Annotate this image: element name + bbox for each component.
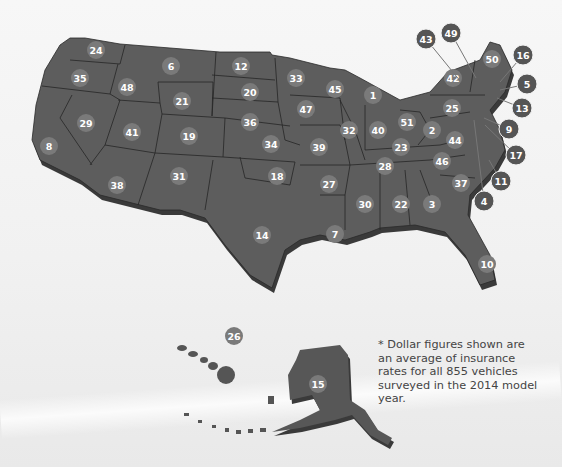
state-rank-badge: 48 <box>118 78 136 96</box>
svg-text:22: 22 <box>394 199 407 210</box>
svg-text:9: 9 <box>506 124 513 135</box>
svg-text:37: 37 <box>454 178 467 189</box>
state-rank-badge: 1 <box>364 86 382 104</box>
svg-text:34: 34 <box>264 139 278 150</box>
state-rank-badge: 14 <box>253 226 271 244</box>
svg-text:8: 8 <box>46 141 53 152</box>
state-rank-badge: 22 <box>392 195 410 213</box>
state-rank-badge: 35 <box>71 69 89 87</box>
svg-text:3: 3 <box>429 199 436 210</box>
svg-text:51: 51 <box>400 117 413 128</box>
state-rank-badge: 36 <box>241 113 259 131</box>
state-rank-badge: 31 <box>170 167 188 185</box>
svg-text:4: 4 <box>481 196 488 207</box>
state-rank-badge: 40 <box>369 121 387 139</box>
state-rank-badge: 34 <box>262 135 280 153</box>
svg-text:44: 44 <box>448 135 462 146</box>
state-rank-badge: 27 <box>320 175 338 193</box>
state-rank-badge: 24 <box>87 41 105 59</box>
svg-text:2: 2 <box>429 125 436 136</box>
svg-text:38: 38 <box>110 180 124 191</box>
svg-text:21: 21 <box>175 96 188 107</box>
state-rank-badge: 20 <box>241 83 259 101</box>
state-rank-badge: 12 <box>232 57 250 75</box>
footnote: * Dollar figures shown are an average of… <box>378 338 538 406</box>
svg-text:29: 29 <box>79 118 92 129</box>
state-rank-badge: 21 <box>173 92 191 110</box>
svg-text:20: 20 <box>243 87 257 98</box>
svg-text:5: 5 <box>524 79 531 90</box>
svg-text:11: 11 <box>494 176 507 187</box>
svg-text:25: 25 <box>445 103 458 114</box>
state-rank-badge: 32 <box>340 121 358 139</box>
state-rank-badge: 8 <box>40 137 58 155</box>
svg-text:41: 41 <box>125 127 138 138</box>
svg-text:48: 48 <box>120 82 134 93</box>
state-rank-badge: 15 <box>309 375 327 393</box>
svg-text:14: 14 <box>255 230 269 241</box>
svg-text:13: 13 <box>515 103 528 114</box>
state-rank-badge: 50 <box>483 50 501 68</box>
state-rank-badge: 46 <box>433 152 451 170</box>
svg-text:50: 50 <box>485 54 499 65</box>
state-rank-badge: 39 <box>310 138 328 156</box>
state-rank-badge: 44 <box>446 131 464 149</box>
state-rank-badge: 41 <box>123 123 141 141</box>
svg-text:43: 43 <box>419 34 432 45</box>
svg-text:30: 30 <box>358 199 372 210</box>
svg-text:46: 46 <box>435 156 449 167</box>
svg-text:1: 1 <box>370 90 377 101</box>
hawaii <box>177 345 235 384</box>
svg-text:12: 12 <box>234 61 247 72</box>
svg-text:7: 7 <box>332 229 339 240</box>
svg-text:33: 33 <box>289 73 302 84</box>
alaska <box>184 345 394 449</box>
state-rank-badge: 29 <box>77 114 95 132</box>
state-rank-badge: 38 <box>108 176 126 194</box>
svg-text:23: 23 <box>394 142 407 153</box>
state-rank-badge: 47 <box>297 100 315 118</box>
svg-text:49: 49 <box>444 28 457 39</box>
svg-text:40: 40 <box>371 125 385 136</box>
state-rank-badge: 45 <box>326 80 344 98</box>
state-rank-badge: 51 <box>398 113 416 131</box>
svg-text:10: 10 <box>480 259 494 270</box>
state-rank-badge: 19 <box>180 127 198 145</box>
state-rank-badge: 23 <box>392 138 410 156</box>
svg-text:26: 26 <box>227 331 241 342</box>
svg-text:39: 39 <box>312 142 325 153</box>
state-rank-badge: 3 <box>423 195 441 213</box>
svg-text:35: 35 <box>73 73 86 84</box>
svg-text:18: 18 <box>270 171 284 182</box>
svg-text:31: 31 <box>172 171 185 182</box>
svg-text:15: 15 <box>311 379 324 390</box>
svg-text:6: 6 <box>168 61 175 72</box>
state-rank-badge: 25 <box>443 99 461 117</box>
svg-text:47: 47 <box>299 104 312 115</box>
state-rank-badge: 28 <box>376 157 394 175</box>
svg-text:16: 16 <box>516 50 530 61</box>
svg-text:17: 17 <box>509 150 522 161</box>
state-rank-badge: 7 <box>326 225 344 243</box>
svg-text:24: 24 <box>89 45 103 56</box>
state-rank-badge: 2 <box>423 121 441 139</box>
state-rank-badge: 37 <box>452 174 470 192</box>
svg-text:45: 45 <box>328 84 341 95</box>
svg-text:32: 32 <box>342 125 355 136</box>
state-rank-badge: 10 <box>478 255 496 273</box>
state-rank-badge: 18 <box>268 167 286 185</box>
svg-text:19: 19 <box>182 131 195 142</box>
state-rank-badge: 6 <box>162 57 180 75</box>
state-rank-badge: 26 <box>225 327 243 345</box>
state-rank-badge: 33 <box>287 69 305 87</box>
svg-text:28: 28 <box>378 161 392 172</box>
svg-text:36: 36 <box>243 117 257 128</box>
state-rank-badge: 30 <box>356 195 374 213</box>
svg-text:27: 27 <box>322 179 335 190</box>
